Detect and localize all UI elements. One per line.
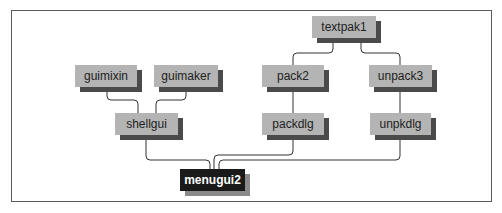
node-unpack3: unpack3 — [369, 65, 432, 87]
node-label: packdlg — [262, 113, 324, 135]
node-unpkdlg: unpkdlg — [370, 113, 431, 135]
node-packdlg: packdlg — [262, 113, 324, 135]
node-label: menugui2 — [180, 169, 245, 191]
edge-menugui2-shellgui — [146, 136, 210, 169]
edge-menugui2-packdlg — [214, 136, 293, 169]
node-guimixin: guimixin — [75, 65, 137, 87]
node-label: guimixin — [75, 65, 137, 87]
node-label: unpkdlg — [370, 113, 431, 135]
node-label: textpak1 — [312, 16, 376, 38]
node-shellgui: shellgui — [115, 113, 178, 135]
node-guimaker: guimaker — [154, 65, 218, 87]
edge-menugui2-unpkdlg — [219, 136, 400, 169]
node-label: guimaker — [154, 65, 218, 87]
diagram-canvas: textpak1 guimixin guimaker pack2 unpack3… — [0, 0, 502, 213]
edges-layer — [0, 0, 502, 213]
node-label: shellgui — [115, 113, 178, 135]
node-label: pack2 — [262, 65, 324, 87]
node-textpak1: textpak1 — [312, 16, 376, 38]
node-label: unpack3 — [369, 65, 432, 87]
node-menugui2-root: menugui2 — [180, 169, 245, 191]
node-pack2: pack2 — [262, 65, 324, 87]
